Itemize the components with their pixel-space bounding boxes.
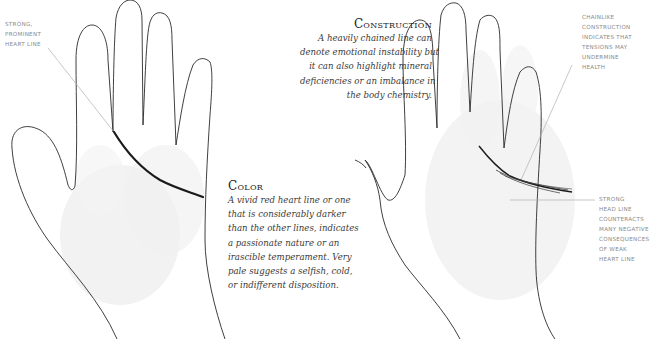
color-section: Color A vivid red heart line or one that… [228, 180, 398, 292]
left-leader-line [48, 48, 114, 132]
strong-head-line-label: Strong Head Line Counteracts Many Negati… [599, 194, 649, 264]
construction-heading: Construction [300, 18, 432, 31]
color-heading: Color [228, 180, 398, 193]
construction-body: A heavily chained line can denote emotio… [300, 31, 432, 102]
color-body: A vivid red heart line or one that is co… [228, 193, 398, 292]
prominent-heart-line-label: Strong, Prominent Heart Line [5, 19, 41, 49]
palmistry-diagram: Strong, Prominent Heart Line Constructio… [0, 0, 654, 339]
left-hand-illustration [12, 0, 225, 339]
chainlike-construction-label: Chainlike Construction Indicates that Te… [582, 12, 632, 72]
construction-section: Construction A heavily chained line can … [300, 18, 432, 102]
